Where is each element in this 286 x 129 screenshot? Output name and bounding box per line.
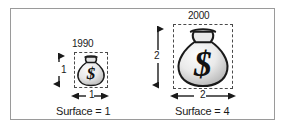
figure-container: 1990 $ xyxy=(0,0,286,129)
surface-caption-2000: Surface = 4 xyxy=(175,106,229,117)
year-label-2000: 2000 xyxy=(188,11,209,21)
panel-1990: 1990 $ xyxy=(10,0,142,129)
svg-text:$: $ xyxy=(193,43,212,83)
height-dimension-label-small: 1 xyxy=(61,65,67,75)
money-bag-icon-large: $ xyxy=(175,26,231,87)
svg-text:$: $ xyxy=(86,64,96,83)
money-bag-icon-small: $ xyxy=(76,54,106,86)
year-label-1990: 1990 xyxy=(72,39,93,49)
width-dimension-label-large: 2 xyxy=(200,90,206,100)
width-dimension-label-small: 1 xyxy=(89,90,95,100)
surface-caption-1990: Surface = 1 xyxy=(56,106,110,117)
panel-2000: 2000 $ xyxy=(142,0,275,129)
height-dimension-label-large: 2 xyxy=(154,51,160,61)
